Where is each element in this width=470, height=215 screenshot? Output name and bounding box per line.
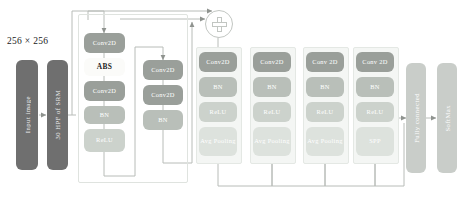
block-2-conv2d-1: Conv2D xyxy=(143,60,183,80)
block-3-relu: ReLU xyxy=(199,102,237,122)
block-6-spp: SPP xyxy=(356,127,394,156)
srm-filter-block: 30 HPF of SRM xyxy=(47,60,68,170)
plus-icon xyxy=(212,17,227,32)
block-4-bn: BN xyxy=(253,77,291,97)
block-4-avg-pooling: Avg Pooling xyxy=(253,127,291,156)
block-6-relu: ReLU xyxy=(356,102,394,122)
block-6-conv2d: Conv 2D xyxy=(356,52,394,72)
block-5-avg-pooling: Avg Pooling xyxy=(306,127,344,156)
srm-filter-label: 30 HPF of SRM xyxy=(54,90,61,140)
fully-connected-block: Fully connected xyxy=(406,63,426,173)
architecture-diagram: 256 × 256 Input image 30 HPF of SRM Conv… xyxy=(0,0,470,215)
block-1-conv2d-2: Conv2D xyxy=(84,81,125,101)
input-image-block: Input image xyxy=(16,60,38,170)
block-3-bn: BN xyxy=(199,77,237,97)
block-5-relu: ReLU xyxy=(306,102,344,122)
block-2-bn: BN xyxy=(143,110,183,130)
block-6-bn: BN xyxy=(356,77,394,97)
block-1-relu: ReLU xyxy=(84,129,125,152)
block-4-relu: ReLU xyxy=(253,102,291,122)
addition-node xyxy=(205,10,233,38)
softmax-label: SoftMax xyxy=(444,105,451,132)
input-image-label: Input image xyxy=(24,96,31,133)
block-3-avg-pooling: Avg Pooling xyxy=(199,127,237,156)
block-5-conv2d: Conv 2D xyxy=(306,52,344,72)
softmax-block: SoftMax xyxy=(437,63,457,173)
block-1-conv2d-1: Conv2D xyxy=(84,33,125,53)
block-1-abs: ABS xyxy=(84,58,125,76)
fully-connected-label: Fully connected xyxy=(413,93,420,143)
block-2-conv2d-2: Conv2D xyxy=(143,85,183,105)
input-size-caption: 256 × 256 xyxy=(7,36,48,46)
block-5-bn: BN xyxy=(306,77,344,97)
block-1-bn: BN xyxy=(84,106,125,124)
block-4-conv2d: Conv2D xyxy=(253,52,291,72)
block-3-conv2d: Conv2D xyxy=(199,52,237,72)
